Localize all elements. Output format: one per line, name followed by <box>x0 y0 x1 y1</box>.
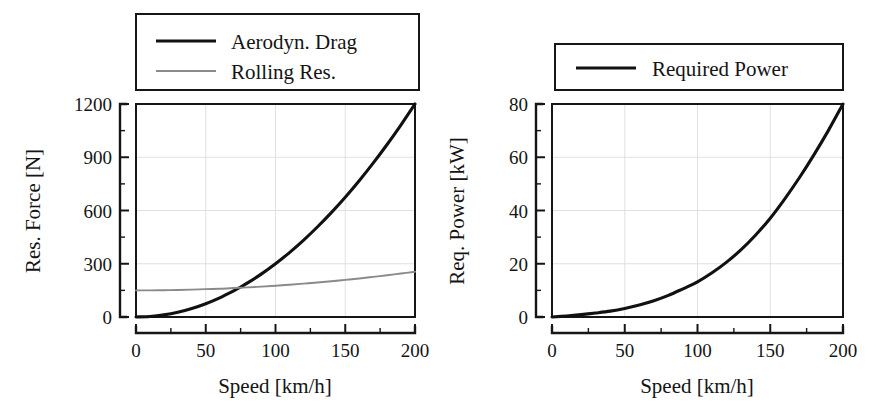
x-tick-label: 150 <box>331 340 360 361</box>
x-tick-label: 100 <box>683 340 712 361</box>
legend-left: Aerodyn. Drag Rolling Res. <box>136 14 419 90</box>
y-tick-label: 60 <box>509 147 528 168</box>
y-tick-label: 300 <box>84 254 113 275</box>
x-tick-label: 150 <box>756 340 785 361</box>
x-tick-labels-left: 050100150200 <box>131 340 429 361</box>
legend-label-aerodyn-drag: Aerodyn. Drag <box>231 30 357 54</box>
y-tick-label: 0 <box>103 307 113 328</box>
y-tick-label: 900 <box>84 147 113 168</box>
y-tick-label: 40 <box>509 201 528 222</box>
x-axis-title-left: Speed [km/h] <box>218 374 332 398</box>
y-axis-left <box>120 104 129 317</box>
gridlines-left <box>137 105 414 316</box>
y-tick-labels-right: 020406080 <box>509 94 528 328</box>
y-tick-labels-left: 03006009001200 <box>74 94 112 328</box>
y-axis-title-left: Res. Force [N] <box>21 149 45 273</box>
x-tick-label: 0 <box>131 340 141 361</box>
y-axis-title-right: Req. Power [kW] <box>445 137 469 285</box>
x-tick-label: 50 <box>615 340 634 361</box>
y-tick-label: 1200 <box>74 94 112 115</box>
x-tick-label: 200 <box>829 340 858 361</box>
x-axis-title-right: Speed [km/h] <box>640 374 754 398</box>
chart-panel-resistive-force: 03006009001200 050100150200 Res. Force [… <box>0 0 440 414</box>
x-tick-label: 100 <box>261 340 290 361</box>
y-tick-label: 600 <box>84 201 113 222</box>
legend-right: Required Power <box>555 44 843 90</box>
y-tick-label: 20 <box>509 254 528 275</box>
gridlines-right <box>553 105 842 316</box>
figure-two-panel-chart: 03006009001200 050100150200 Res. Force [… <box>0 0 879 414</box>
resistive-force-svg: 03006009001200 050100150200 Res. Force [… <box>0 0 440 414</box>
x-axis-left <box>136 324 415 333</box>
legend-label-required-power: Required Power <box>652 57 788 81</box>
x-tick-label: 0 <box>547 340 557 361</box>
x-axis-right <box>552 324 843 333</box>
chart-panel-required-power: 020406080 050100150200 Req. Power [kW] S… <box>440 0 879 414</box>
y-tick-label: 80 <box>509 94 528 115</box>
legend-label-rolling-res: Rolling Res. <box>231 60 336 84</box>
required-power-svg: 020406080 050100150200 Req. Power [kW] S… <box>440 0 879 414</box>
x-tick-label: 200 <box>401 340 430 361</box>
x-tick-label: 50 <box>196 340 215 361</box>
x-tick-labels-right: 050100150200 <box>547 340 857 361</box>
y-tick-label: 0 <box>519 307 529 328</box>
y-axis-right <box>536 104 545 317</box>
